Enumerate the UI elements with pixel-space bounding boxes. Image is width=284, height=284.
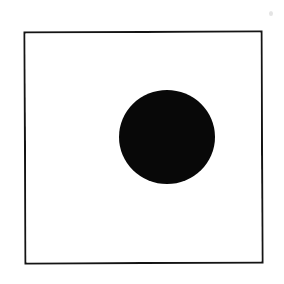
filled-circle-shape: [119, 90, 215, 184]
figure-canvas: A thin black square outline containing o…: [0, 0, 284, 284]
scan-speck-artifact: [269, 11, 273, 16]
figure-caption: A thin black square outline containing o…: [0, 0, 1, 1]
